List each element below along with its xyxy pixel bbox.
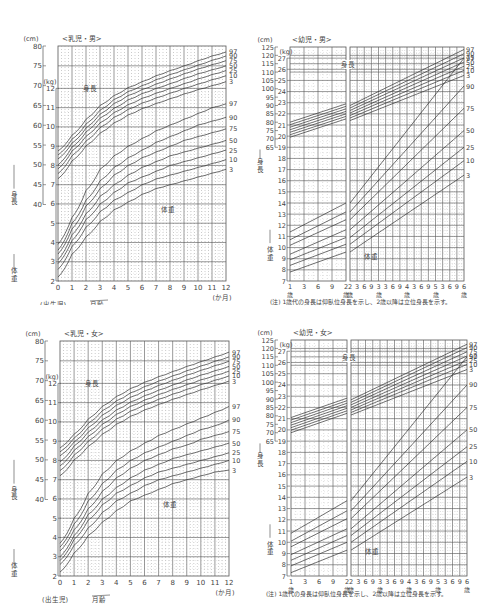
x-tick-label: 5 [128,579,132,587]
weight-percentile-label: 75 [469,404,477,412]
x-tick-label: 0 [58,579,62,587]
x-tick-label: 1 [289,578,293,586]
weight-curves-label: 体重 [161,205,175,214]
x-tick-label: 7 [156,579,160,587]
weight-percentile-label: 25 [229,147,237,155]
weight-tick-label: 18 [278,449,286,457]
x-tick-label: 9 [185,579,189,587]
weight-tick-label: 4 [51,239,56,247]
weight-tick-label: 22 [278,110,286,118]
chart-title: <幼児・女> [293,328,333,337]
x-tick-label: 2 [349,578,353,586]
weight-tick-label: 7 [282,573,286,581]
x-tick-label: 9 [330,283,334,291]
weight-tick-label: 9 [53,438,57,446]
height-tick-label: 70 [266,429,274,437]
height-percentile-label: 3 [232,378,236,386]
weight-percentile-label: 75 [229,125,237,133]
x-tick-label: 1 [72,579,76,587]
weight-percentile-label: 50 [232,440,240,448]
height-tick-label: 40 [33,201,42,209]
weight-tick-label: 21 [278,122,286,130]
x-tick-label: 4 [405,283,409,291]
weight-tick-label: 7 [53,476,57,484]
toddler-male-note: (注) 1歳代の身長は仰臥位身長を示し、2歳以降は立位身長を示す。 [270,297,451,306]
weight-tick-label: 12 [278,222,286,230]
weight-percentile-label: 90 [232,416,240,424]
height-tick-label: 70 [35,377,44,385]
x-tick-label: 3 [302,283,306,291]
weight-percentile-label: 90 [229,114,237,122]
toddler-male-chart: 1251201151101051009590858075706527262524… [250,0,497,310]
height-tick-label: 85 [266,404,274,412]
weight-tick-label: 7 [282,278,286,286]
weight-percentile-label: 3 [229,166,233,174]
weight-axis-label: 重 [11,275,18,283]
height-percentile-label: 3 [229,78,233,86]
weight-percentile-label: 90 [469,381,477,389]
x-tick-label: 3 [98,284,102,292]
infant-male-chart: 80757065605550454012111098765432(cm)(kg)… [0,0,250,305]
height-tick-label: 110 [262,362,274,370]
height-axis-label: 長 [257,166,264,174]
weight-tick-label: 20 [278,426,286,434]
weight-tick-label: 14 [278,494,286,502]
x-tick-label: 7 [154,284,158,292]
weight-percentile-label: 50 [469,426,477,434]
weight-tick-label: 9 [282,255,286,263]
weight-percentile-label: 75 [232,428,240,436]
x-tick-label: 5 [433,283,437,291]
height-tick-label: 80 [35,338,44,346]
height-tick-label: 80 [266,412,274,420]
toddler-female-chart: 1251201151101051009590858075706527262524… [250,310,497,613]
weight-tick-label: 25 [278,77,286,85]
weight-curves-label: 体重 [364,252,378,261]
weight-percentile-label: 97 [229,100,237,108]
x-tick-label: 9 [182,284,186,292]
height-tick-label: 120 [262,345,274,353]
weight-percentile-label: 3 [466,172,470,180]
x-tick-label: 3 [303,578,307,586]
x-tick-label: 8 [170,579,174,587]
height-tick-label: 70 [33,82,42,90]
x-tick-label: 10 [196,579,205,587]
x-tick-label: 3 [356,578,360,586]
x-tick-label: 9 [426,283,430,291]
weight-tick-label: 5 [51,220,55,228]
height-tick-label: 100 [262,379,274,387]
weight-tick-label: 11 [278,528,286,536]
weight-tick-label: 19 [278,144,286,152]
height-curves-label: 身長 [83,84,97,93]
height-tick-label: 60 [35,417,44,425]
height-unit: (cm) [24,35,39,43]
x-tick-label: 6 [450,578,454,586]
height-tick-label: 120 [262,52,274,60]
weight-percentile-label: 10 [466,157,474,165]
height-tick-label: 125 [262,44,274,52]
weight-tick-label: 11 [278,233,286,241]
height-tick-label: 125 [262,337,274,345]
height-unit: (cm) [26,330,41,338]
weight-percentile-label: 10 [229,156,237,164]
x-tick-label: 4 [112,284,117,292]
infant-female-chart: 80757065605550454012111098765432(cm)(kg)… [0,300,250,613]
weight-tick-label: 16 [278,177,286,185]
x-tick-label: 3 [414,578,418,586]
x-tick-label: 0 [56,284,60,292]
height-tick-label: 75 [33,62,42,70]
x-tick-label: 12 [222,284,231,292]
weight-tick-label: 13 [278,505,286,513]
weight-percentile-label: 97 [232,403,240,411]
infant-female-svg: 80757065605550454012111098765432(cm)(kg)… [0,300,250,613]
weight-tick-label: 25 [278,370,286,378]
x-tick-label: 9 [369,283,373,291]
birth-label: (出生児) [42,595,68,604]
toddler-male-svg: 1251201151101051009590858075706527262524… [250,0,497,310]
x-tick-label: 11 [208,284,217,292]
chart-title: <幼児・男> [292,35,332,44]
weight-tick-label: 17 [278,166,286,174]
weight-tick-label: 21 [278,415,286,423]
weight-percentile-label: 97 [469,353,477,361]
x-tick-label: 5 [126,284,130,292]
weight-tick-label: 12 [278,516,286,524]
